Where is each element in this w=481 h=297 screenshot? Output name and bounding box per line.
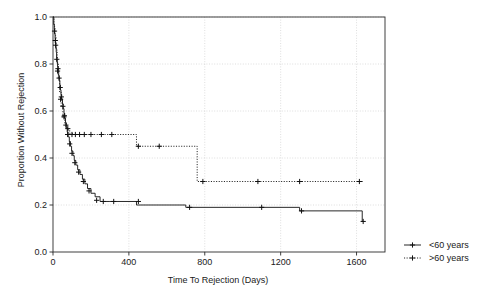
x-tick-label: 1600: [347, 257, 367, 267]
censor-group-under60: [52, 29, 366, 225]
y-axis-title: Proportion Without Rejection: [16, 73, 26, 188]
y-tick-label: 0.4: [34, 153, 47, 163]
censor-marks: [52, 29, 366, 225]
chart-svg: 040080012001600 0.00.20.40.60.81.0 Time …: [0, 0, 481, 297]
y-tick-label: 1.0: [34, 12, 47, 22]
x-axis-title: Time To Rejection (Days): [168, 275, 269, 285]
legend-item-under60[interactable]: <60 years: [404, 240, 469, 250]
tick-marks: [50, 17, 357, 256]
survival-curves: [53, 17, 364, 221]
y-tick-label: 0.6: [34, 106, 47, 116]
x-tick-label: 800: [197, 257, 212, 267]
legend-item-over60[interactable]: >60 years: [404, 253, 469, 263]
survival-curve-under60: [53, 17, 364, 221]
legend-label: >60 years: [429, 253, 469, 263]
x-tick-label: 400: [121, 257, 136, 267]
y-tick-label: 0.0: [34, 247, 47, 257]
y-tick-labels: 0.00.20.40.60.81.0: [34, 12, 47, 257]
x-tick-labels: 040080012001600: [50, 257, 366, 267]
y-tick-label: 0.8: [34, 59, 47, 69]
legend-label: <60 years: [429, 240, 469, 250]
x-tick-label: 1200: [271, 257, 291, 267]
chart-legend: <60 years>60 years: [404, 240, 469, 263]
survival-curve-over60: [53, 17, 364, 182]
kaplan-meier-figure: 040080012001600 0.00.20.40.60.81.0 Time …: [0, 0, 481, 297]
x-tick-label: 0: [50, 257, 55, 267]
y-tick-label: 0.2: [34, 200, 47, 210]
